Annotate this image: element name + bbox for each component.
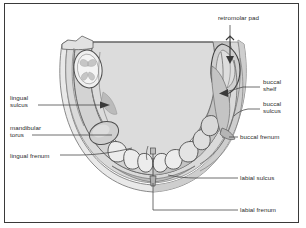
figure-page: retromolar pad buccal shelf buccal sulcu… bbox=[0, 0, 306, 228]
label-buccal-shelf-line1: buccal bbox=[263, 78, 281, 85]
label-retromolar-pad: retromolar pad bbox=[218, 14, 259, 21]
label-lingual-sulcus-line2: sulcus bbox=[10, 101, 28, 108]
label-lingual-sulcus: lingual sulcus bbox=[10, 94, 28, 109]
label-mandibular-torus: mandibular torus bbox=[10, 124, 41, 139]
label-lingual-frenum: lingual frenum bbox=[10, 152, 50, 159]
label-buccal-sulcus-line1: buccal bbox=[263, 100, 281, 107]
label-buccal-shelf-line2: shelf bbox=[263, 85, 281, 92]
tooth-right-molar bbox=[201, 116, 219, 136]
label-buccal-frenum: buccal frenum bbox=[240, 133, 280, 140]
mandibular-arch-illustration bbox=[0, 0, 306, 228]
label-labial-sulcus: labial sulcus bbox=[240, 174, 274, 181]
tooth-left-central-incisor bbox=[138, 153, 153, 172]
label-lingual-sulcus-line1: lingual bbox=[10, 94, 28, 101]
label-retromolar-pad-line1: retromolar pad bbox=[218, 14, 259, 21]
label-buccal-sulcus: buccal sulcus bbox=[263, 100, 281, 115]
label-buccal-shelf: buccal shelf bbox=[263, 78, 281, 93]
label-labial-frenum: labial frenum bbox=[240, 206, 276, 213]
label-lingual-frenum-line1: lingual frenum bbox=[10, 152, 50, 159]
label-labial-sulcus-line1: labial sulcus bbox=[240, 174, 274, 181]
left-posterior-corner bbox=[62, 36, 93, 50]
midline-marker bbox=[151, 148, 156, 154]
label-labial-frenum-line1: labial frenum bbox=[240, 206, 276, 213]
label-buccal-sulcus-line2: sulcus bbox=[263, 107, 281, 114]
label-mandibular-torus-line1: mandibular bbox=[10, 124, 41, 131]
label-buccal-frenum-line1: buccal frenum bbox=[240, 133, 280, 140]
label-mandibular-torus-line2: torus bbox=[10, 131, 41, 138]
